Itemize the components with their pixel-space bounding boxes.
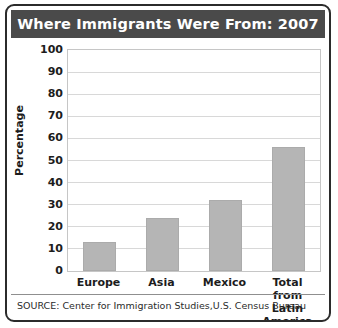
- chart-title-bar: Where Immigrants Were From: 2007: [11, 10, 325, 38]
- source-note: SOURCE: Center for Immigration Studies,U…: [17, 300, 306, 311]
- x-tick-label: Asia: [130, 276, 193, 289]
- x-axis-tick-labels: EuropeAsiaMexicoTotal fromLatinAmerica: [67, 276, 321, 322]
- plot-area: [67, 49, 321, 272]
- y-tick-label: 50: [11, 153, 63, 166]
- y-tick-label: 100: [11, 43, 63, 56]
- x-tick-label-line: America: [256, 315, 319, 322]
- gridline: [68, 94, 320, 95]
- y-tick-label: 40: [11, 175, 63, 188]
- y-tick-label: 20: [11, 219, 63, 232]
- x-tick-label-line: Asia: [130, 276, 193, 289]
- gridline: [68, 116, 320, 117]
- chart-title: Where Immigrants Were From: 2007: [17, 16, 319, 32]
- y-axis-tick-labels: 1009080706050403020100: [7, 49, 63, 272]
- x-tick-label-line: Europe: [67, 276, 130, 289]
- bar: [209, 200, 242, 271]
- bar: [272, 147, 305, 271]
- y-tick-label: 0: [11, 264, 63, 277]
- bar: [83, 242, 116, 271]
- x-tick-label: Mexico: [193, 276, 256, 289]
- x-tick-label-line: Total from: [256, 276, 319, 302]
- y-tick-label: 30: [11, 197, 63, 210]
- source-divider: [11, 294, 325, 295]
- x-tick-label: Total fromLatinAmerica: [256, 276, 319, 322]
- chart-plot-area-wrapper: Percentage 1009080706050403020100 Europe…: [7, 38, 329, 290]
- y-tick-label: 60: [11, 131, 63, 144]
- gridline: [68, 138, 320, 139]
- y-tick-label: 80: [11, 87, 63, 100]
- y-tick-label: 70: [11, 109, 63, 122]
- x-tick-label-line: Mexico: [193, 276, 256, 289]
- chart-figure: Where Immigrants Were From: 2007 Percent…: [5, 4, 331, 322]
- y-tick-label: 90: [11, 65, 63, 78]
- x-tick-label: Europe: [67, 276, 130, 289]
- gridline: [68, 72, 320, 73]
- bar: [146, 218, 179, 271]
- y-tick-label: 10: [11, 241, 63, 254]
